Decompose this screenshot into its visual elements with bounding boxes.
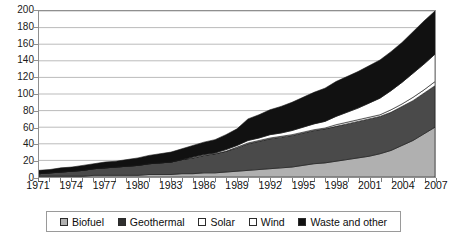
x-tick-label: 1986 (187, 179, 221, 191)
legend-swatch-icon (60, 218, 68, 226)
x-tick-label: 1971 (21, 179, 55, 191)
y-tick-label: 20 (0, 156, 34, 166)
plot-svg (39, 11, 435, 177)
legend-swatch-icon (118, 218, 126, 226)
y-tick-mark (33, 128, 38, 129)
y-tick-label: 80 (0, 106, 34, 116)
legend-swatch-icon (298, 218, 306, 226)
legend-item[interactable]: Geothermal (118, 216, 185, 228)
x-tick-label: 1995 (286, 179, 320, 191)
y-tick-mark (33, 60, 38, 61)
x-tick-label: 2001 (353, 179, 387, 191)
legend-item[interactable]: Biofuel (60, 216, 104, 228)
x-tick-label: 1974 (54, 179, 88, 191)
legend-label: Solar (210, 216, 235, 228)
stacked-area-chart: 020406080100120140160180200 197119741977… (0, 0, 447, 190)
y-tick-label: 100 (0, 89, 34, 99)
y-tick-label: 60 (0, 123, 34, 133)
x-tick-label: 1980 (121, 179, 155, 191)
x-axis-labels: 1971197419771980198319861989199219951998… (0, 179, 447, 195)
y-tick-mark (33, 10, 38, 11)
legend-label: Waste and other (310, 216, 387, 228)
y-tick-mark (33, 77, 38, 78)
y-tick-mark (33, 27, 38, 28)
x-tick-label: 1977 (87, 179, 121, 191)
x-tick-label: 1992 (253, 179, 287, 191)
chart-legend: BiofuelGeothermalSolarWindWaste and othe… (46, 211, 401, 232)
y-tick-mark (33, 111, 38, 112)
legend-item[interactable]: Solar (198, 216, 235, 228)
y-tick-mark (33, 161, 38, 162)
y-tick-label: 160 (0, 39, 34, 49)
legend-label: Wind (261, 216, 285, 228)
y-axis: 020406080100120140160180200 (0, 10, 34, 178)
legend-swatch-icon (249, 218, 257, 226)
x-tick-label: 1989 (220, 179, 254, 191)
x-tick-label: 1998 (320, 179, 354, 191)
legend-item[interactable]: Waste and other (298, 216, 387, 228)
y-tick-mark (33, 144, 38, 145)
legend-swatch-icon (198, 218, 206, 226)
y-tick-label: 40 (0, 139, 34, 149)
y-tick-label: 180 (0, 22, 34, 32)
y-tick-label: 200 (0, 5, 34, 15)
plot-area (38, 10, 436, 178)
legend-label: Geothermal (130, 216, 185, 228)
x-tick-label: 2007 (419, 179, 452, 191)
y-tick-mark (33, 94, 38, 95)
y-tick-label: 120 (0, 72, 34, 82)
legend-label: Biofuel (72, 216, 104, 228)
x-tick-label: 2004 (386, 179, 420, 191)
y-tick-label: 140 (0, 55, 34, 65)
x-tick-label: 1983 (154, 179, 188, 191)
y-tick-mark (33, 44, 38, 45)
y-tick-mark (33, 178, 38, 179)
legend-item[interactable]: Wind (249, 216, 285, 228)
